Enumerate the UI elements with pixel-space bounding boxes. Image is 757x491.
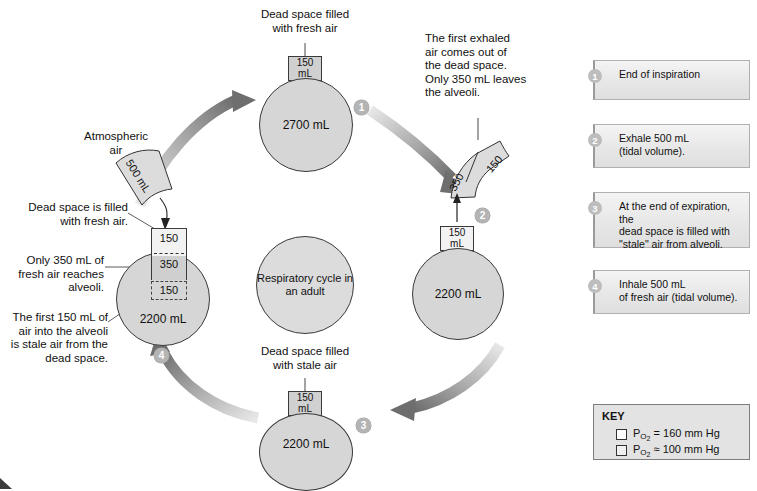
key-row-1-label: PO2 = 160 mm Hg (633, 427, 720, 442)
step4-column-dashed-box: 150 (151, 281, 187, 300)
center-hub: Respiratory cycle in an adult (256, 236, 354, 334)
step1-badge: 1 (354, 100, 369, 115)
legend-badge-3: 3 (588, 201, 602, 215)
legend-badge-1: 1 (588, 69, 602, 83)
key-swatch-stale-icon (616, 445, 627, 456)
exhale-direction-arrow (453, 193, 461, 222)
legend-item-3[interactable]: 3 At the end of expiration, the dead spa… (593, 192, 750, 248)
key-swatch-fresh-icon (616, 429, 627, 440)
step4-column-mid-value: 350 (152, 258, 186, 270)
exhaled-air-tube (451, 141, 509, 198)
inhaled-tube-label: 500 mL (124, 157, 154, 194)
legend-text-2: Exhale 500 mL (tidal volume). (619, 132, 744, 157)
step1-alveoli-circle: 2700 mL (259, 78, 353, 172)
corner-mark (0, 478, 12, 489)
step3-badge: 3 (356, 418, 371, 433)
key-title: KEY (602, 410, 625, 422)
key-row-1: PO2 = 160 mm Hg (616, 427, 720, 442)
step3-alveoli-circle: 2200 mL (259, 413, 353, 491)
step2-alveoli-circle: 2200 mL (412, 248, 504, 340)
step1-volume: 2700 mL (283, 118, 330, 132)
cycle-arrow-2-to-3 (390, 345, 500, 421)
step1-caption: Dead space filled with fresh air (246, 8, 364, 35)
step2-dead-space-value: 150 (449, 227, 466, 238)
step2-badge: 2 (475, 208, 490, 223)
legend-badge-4: 4 (588, 279, 602, 293)
step4-caption-dead-space: Dead space is filled with fresh air. (10, 201, 128, 228)
step2-caption: The first exhaled air comes out of the d… (425, 32, 565, 100)
legend-item-1[interactable]: 1 End of inspiration (593, 60, 750, 100)
key-box: KEY PO2 = 160 mm Hg PO2 ≈ 100 mm Hg (593, 404, 750, 460)
key-row-2-label: PO2 ≈ 100 mm Hg (633, 443, 720, 458)
atmospheric-air-caption: Atmospheric air (68, 130, 164, 157)
legend-item-4[interactable]: 4 Inhale 500 mL of fresh air (tidal volu… (593, 270, 750, 314)
exhaled-tube-label-350: 350 (447, 171, 466, 193)
step4-volume: 2200 mL (140, 312, 187, 326)
exhaled-tube-label-150: 150 (484, 153, 505, 175)
legend-text-1: End of inspiration (619, 68, 744, 81)
inhale-direction-arrow (160, 198, 170, 230)
step4-column-top-value: 150 (152, 232, 186, 244)
step4-caption-stale: The first 150 mL of air into the alveoli… (2, 311, 108, 365)
step3-volume: 2200 mL (283, 437, 330, 451)
legend-text-4: Inhale 500 mL of fresh air (tidal volume… (619, 278, 744, 303)
center-hub-label: Respiratory cycle in an adult (257, 272, 353, 298)
step4-caption-fresh: Only 350 mL of fresh air reaches alveoli… (8, 254, 104, 295)
step3-caption: Dead space filled with stale air (246, 345, 364, 372)
step2-volume: 2200 mL (435, 287, 482, 301)
step4-column-top: 150 350 (151, 228, 187, 280)
step1-dead-space-value: 150 (297, 57, 314, 68)
key-row-2: PO2 ≈ 100 mm Hg (616, 443, 720, 458)
legend-text-3: At the end of expiration, the dead space… (619, 200, 744, 250)
legend-badge-2: 2 (588, 133, 602, 147)
step4-column-divider (154, 253, 184, 254)
legend-item-2[interactable]: 2 Exhale 500 mL (tidal volume). (593, 124, 750, 168)
step3-dead-space-value: 150 (297, 392, 314, 403)
step4-badge: 4 (154, 348, 169, 363)
